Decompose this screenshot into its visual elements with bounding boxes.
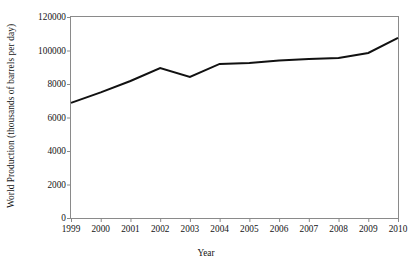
plot-area bbox=[0, 0, 412, 272]
data-series-line bbox=[71, 38, 398, 103]
plot-frame bbox=[71, 17, 399, 219]
chart-figure: World Production (thousands of barrels p… bbox=[0, 0, 412, 272]
